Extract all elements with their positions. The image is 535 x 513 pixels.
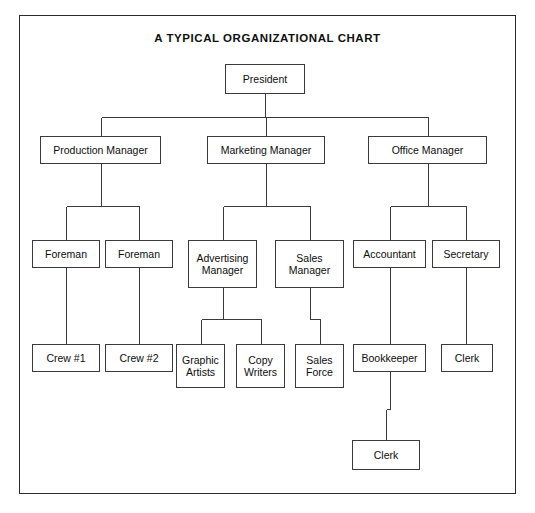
chart-nodes-layer: PresidentProduction ManagerMarketing Man… <box>0 0 535 513</box>
org-node-label: Office Manager <box>392 144 464 157</box>
org-node-president[interactable]: President <box>225 64 305 94</box>
org-node-label: Graphic Artists <box>182 354 219 379</box>
org-node-label: Crew #1 <box>46 352 85 365</box>
org-node-advertising-manager[interactable]: Advertising Manager <box>188 240 257 288</box>
org-node-label: Copy Writers <box>244 354 277 379</box>
org-node-label: Bookkeeper <box>361 352 417 365</box>
org-node-accountant[interactable]: Accountant <box>353 240 426 268</box>
org-node-sales-force[interactable]: Sales Force <box>295 344 344 388</box>
org-node-copy-writers[interactable]: Copy Writers <box>236 344 285 388</box>
org-node-marketing-manager[interactable]: Marketing Manager <box>207 136 325 164</box>
org-node-crew-2[interactable]: Crew #2 <box>105 344 173 372</box>
org-node-crew-1[interactable]: Crew #1 <box>32 344 100 372</box>
org-node-label: Production Manager <box>53 144 148 157</box>
org-node-production-manager[interactable]: Production Manager <box>40 136 161 164</box>
org-node-foreman-1[interactable]: Foreman <box>32 240 100 268</box>
organizational-chart-page: A TYPICAL ORGANIZATIONAL CHART President… <box>0 0 535 513</box>
org-node-label: Sales Force <box>306 354 333 379</box>
org-node-label: Sales Manager <box>289 252 330 277</box>
org-node-label: Accountant <box>363 248 416 261</box>
org-node-graphic-artists[interactable]: Graphic Artists <box>176 344 225 388</box>
org-node-bookkeeper[interactable]: Bookkeeper <box>353 344 426 372</box>
org-node-label: Secretary <box>444 248 489 261</box>
org-node-label: Foreman <box>45 248 87 261</box>
org-node-clerk-secretary[interactable]: Clerk <box>441 344 493 372</box>
org-node-label: President <box>243 73 287 86</box>
org-node-foreman-2[interactable]: Foreman <box>105 240 173 268</box>
org-node-office-manager[interactable]: Office Manager <box>368 136 487 164</box>
org-node-sales-manager[interactable]: Sales Manager <box>275 240 344 288</box>
org-node-label: Advertising Manager <box>197 252 249 277</box>
org-node-label: Foreman <box>118 248 160 261</box>
org-node-secretary[interactable]: Secretary <box>432 240 500 268</box>
org-node-label: Crew #2 <box>119 352 158 365</box>
org-node-label: Marketing Manager <box>221 144 311 157</box>
org-node-label: Clerk <box>455 352 480 365</box>
org-node-label: Clerk <box>374 449 399 462</box>
org-node-clerk-bookkeeper[interactable]: Clerk <box>352 440 420 470</box>
